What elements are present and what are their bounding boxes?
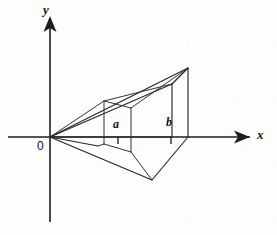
geometry-figure (0, 0, 277, 235)
tick-group (118, 137, 171, 144)
edge-apex-to-a-topback (50, 101, 104, 137)
label-a: a (113, 118, 119, 130)
figure-container: x y 0 a b (0, 0, 277, 235)
edge-a-right-to-b-right (131, 68, 188, 108)
label-origin: 0 (37, 140, 44, 152)
edge-front-bottom-to-b-right (152, 137, 188, 180)
edge-apex-to-front-bottom (50, 137, 152, 180)
edge-cross-a-top (104, 101, 131, 108)
edge-cross-a-bottom (104, 144, 131, 152)
edge-a-bottomback-to-axis (98, 144, 104, 146)
label-y: y (43, 3, 49, 16)
axes-group (8, 16, 250, 222)
edge-apex-lower-left (50, 137, 98, 146)
edge-b-top-to-b-backtop (172, 68, 188, 84)
label-b: b (166, 116, 172, 128)
label-x: x (257, 128, 264, 141)
